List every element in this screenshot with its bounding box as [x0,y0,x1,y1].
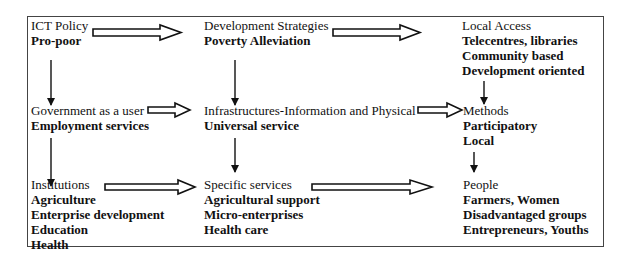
arrow-development-to-local [333,25,420,40]
node-item: Entrepreneurs, Youths [463,222,588,237]
arrow-specific-to-people [312,180,432,194]
node-heading: People [463,177,588,192]
node-methods: Methods Participatory Local [463,103,537,148]
node-item: Telecentres, libraries [462,33,584,48]
node-infrastructures: Infrastructures-Information and Physical… [204,103,416,133]
node-local-access: Local Access Telecentres, libraries Comm… [462,18,584,78]
node-item: Employment services [31,118,149,133]
node-government-as-user: Government as a user Employment services [31,103,149,133]
node-institutions: Institutions Agriculture Enterprise deve… [31,177,164,252]
node-item: Poverty Alleviation [204,33,329,48]
node-development-strategies: Development Strategies Poverty Alleviati… [204,18,329,48]
arrow-infrastructures-to-methods [418,103,462,117]
node-item: Enterprise development [31,207,164,222]
node-heading: Methods [463,103,537,118]
node-heading: Development Strategies [204,18,329,33]
node-item: Micro-enterprises [204,207,320,222]
node-ict-policy: ICT Policy Pro-poor [31,18,88,48]
node-item: Health care [204,222,320,237]
node-item: Agriculture [31,192,164,207]
node-heading: Institutions [31,177,164,192]
node-item: Development oriented [462,63,584,78]
node-item: Disadvantaged groups [463,207,588,222]
node-heading: Local Access [462,18,584,33]
node-item: Universal service [204,118,416,133]
node-specific-services: Specific services Agricultural support M… [204,177,320,237]
node-item: Local [463,133,537,148]
node-item: Education [31,222,164,237]
arrow-ict-to-development [93,25,181,40]
node-people: People Farmers, Women Disadvantaged grou… [463,177,588,237]
node-item: Farmers, Women [463,192,588,207]
arrow-government-to-infrastructures [148,103,190,117]
node-heading: Government as a user [31,103,149,118]
node-heading: Infrastructures-Information and Physical [204,103,416,118]
node-item: Agricultural support [204,192,320,207]
node-item: Participatory [463,118,537,133]
node-item: Community based [462,48,584,63]
node-item: Health [31,237,164,252]
node-heading: ICT Policy [31,18,88,33]
node-heading: Specific services [204,177,320,192]
node-item: Pro-poor [31,33,88,48]
